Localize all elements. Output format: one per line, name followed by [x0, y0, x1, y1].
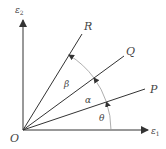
angle-label-alpha: α [85, 95, 91, 105]
arc-theta [106, 102, 111, 130]
angle-diagram: O ε1 ε2 P Q R θ α β [0, 0, 166, 149]
arc-alpha [94, 78, 106, 102]
ray-oq [23, 56, 124, 130]
ray-or [23, 34, 82, 130]
angle-label-beta: β [63, 79, 69, 89]
x-axis-label: ε1 [151, 126, 160, 137]
ray-op [23, 89, 145, 130]
ray-label-r: R [83, 20, 92, 33]
ray-label-p: P [149, 83, 158, 96]
origin-label: O [10, 132, 19, 145]
y-axis-label: ε2 [15, 5, 24, 16]
ray-label-q: Q [126, 45, 135, 58]
angle-label-theta: θ [99, 113, 105, 123]
arc-beta [69, 55, 94, 78]
